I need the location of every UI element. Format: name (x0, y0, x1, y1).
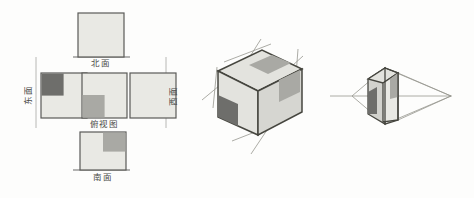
net-label-north: 北面 (91, 58, 110, 68)
net-diagram: 北面 东面 俯视图 西面 南面 (23, 13, 178, 182)
perspective-diagram (330, 68, 452, 124)
figure-root: 北面 东面 俯视图 西面 南面 (0, 0, 474, 198)
net-face-east (41, 73, 87, 118)
technical-drawing-svg: 北面 东面 俯视图 西面 南面 (0, 0, 474, 198)
net-label-south: 南面 (93, 172, 112, 182)
net-face-top-view-patch (83, 95, 105, 117)
net-face-east-patch (42, 74, 64, 96)
net-label-west: 西面 (168, 86, 178, 105)
net-face-north (78, 13, 124, 57)
net-face-south (80, 132, 126, 170)
net-label-top-view: 俯视图 (90, 119, 119, 129)
isometric-diagram (202, 39, 303, 154)
net-face-south-patch (103, 133, 125, 152)
net-label-east: 东面 (23, 85, 33, 104)
net-face-top-view (82, 73, 127, 118)
net-face-north-square (78, 13, 124, 57)
